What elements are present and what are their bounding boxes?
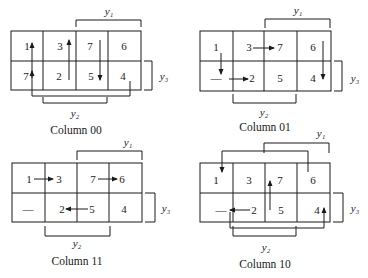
label-y3: y₃ [350,72,360,84]
cell-r0c2: 7 [277,41,283,53]
cell-r1c1: 2 [56,70,62,82]
label-y1: y₁ [293,4,303,16]
label-y2: y₂ [72,237,82,249]
cell-r0c1: 3 [246,174,252,186]
y3-bracket [144,61,152,90]
label-y1: y₁ [316,127,326,139]
label-y2: y₂ [70,107,80,119]
y2-bracket [233,94,296,103]
y2-bracket [43,97,107,103]
cell-r0c3: 6 [310,41,316,53]
y2-bracket [45,226,110,236]
cell-r1c1: 2 [249,72,255,84]
cell-r1c1: 2 [59,203,65,215]
diagram-column-11 [12,151,155,236]
label-y2: y₂ [261,241,271,253]
cell-r1c2: 5 [88,70,94,82]
cell-r1c1: 2 [251,204,257,216]
cell-r0c2: 7 [277,174,283,186]
diagram-column-01 [200,19,342,103]
cell-r0c1: 3 [56,173,62,185]
arrow-dash-to-4 [230,208,324,228]
caption: Column 01 [239,121,291,133]
cell-r1c3: 4 [121,203,127,215]
y3-bracket [145,193,155,222]
y3-bracket [334,61,342,91]
cell-r0c2: 7 [90,173,96,185]
y1-bracket [265,19,330,28]
cell-r0c1: 3 [57,40,63,52]
cell-r1c0: 7 [23,70,29,82]
label-y1: y₁ [123,136,133,148]
cell-r1c3: 4 [314,204,320,216]
cell-r1c2: 5 [278,204,284,216]
cell-r1c0: — [22,203,35,215]
diagram-column-10 [200,143,343,236]
cell-r0c2: 7 [87,40,93,52]
label-y1: y₁ [104,5,114,17]
cell-r1c0: — [215,204,228,216]
cell-r0c1: 3 [246,41,252,53]
arrow-4-to-7 [32,71,130,96]
label-y3: y₃ [159,70,169,82]
cell-r1c2: 5 [277,72,283,84]
cell-r1c3: 4 [120,70,126,82]
cell-r1c0: — [210,72,223,84]
label-y3: y₃ [161,202,171,214]
cell-r1c2: 5 [89,203,95,215]
cell-r0c3: 6 [310,174,316,186]
caption: Column 11 [51,255,102,267]
cell-r0c0: 1 [213,174,219,186]
cell-r0c0: 1 [24,40,30,52]
cell-r1c3: 4 [310,72,316,84]
diagram-column-00 [11,20,152,103]
caption: Column 10 [239,258,291,270]
cell-r0c3: 6 [121,40,127,52]
cell-r0c3: 6 [119,173,125,185]
karnaugh-diagrams: 1 3 7 6 7 2 5 4 y₁ y₃ y₂ Column 00 1 3 7… [0,0,368,278]
y1-bracket [76,20,141,27]
cell-r0c0: 1 [26,173,32,185]
y1-bracket [77,151,142,160]
label-y3: y₃ [350,202,360,214]
caption: Column 00 [50,124,102,136]
label-y2: y₂ [259,106,269,118]
y3-bracket [333,193,343,222]
cell-r0c0: 1 [213,41,219,53]
